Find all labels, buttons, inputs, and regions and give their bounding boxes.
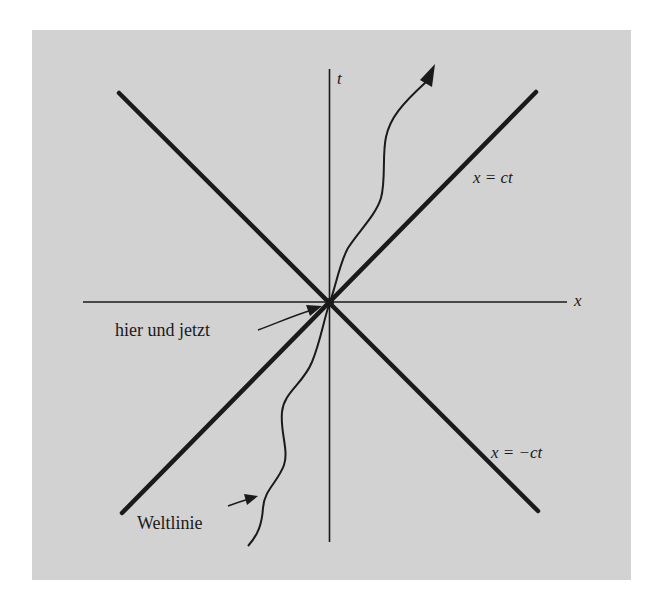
light-cone-label-x-equals-ct: x = ct	[472, 168, 514, 187]
origin-label: hier und jetzt	[115, 320, 210, 340]
worldline-past	[248, 302, 330, 546]
worldline-future	[330, 82, 426, 302]
worldline-pointer-arrowhead-icon	[244, 494, 258, 505]
t-axis-label: t	[337, 69, 343, 88]
light-cone-label-x-equals-minus-ct: x = −ct	[490, 443, 544, 462]
light-cone-diagram: t x x = ct x = −ct hier und jetzt Weltli…	[0, 0, 651, 606]
worldline-label: Weltlinie	[137, 513, 203, 533]
x-axis-label: x	[573, 291, 582, 310]
worldline-arrowhead-icon	[420, 64, 435, 87]
